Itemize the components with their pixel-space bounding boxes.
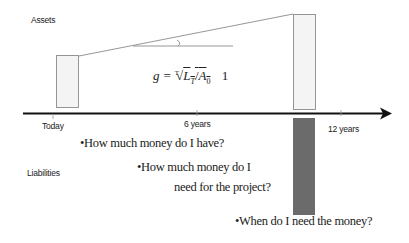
liability-box bbox=[293, 118, 315, 215]
assets-label: Assets bbox=[31, 15, 55, 25]
tick-label-6-years: 6 years bbox=[184, 119, 210, 129]
question-need-line2: need for the project? bbox=[174, 180, 271, 195]
formula-tail: 1 bbox=[222, 68, 229, 83]
formula-denominator-sub: 0 bbox=[206, 77, 210, 86]
growth-formula: g = T√LT/A0 1 bbox=[153, 68, 228, 86]
question-when: •When do I need the money? bbox=[235, 214, 372, 229]
formula-lhs: g = bbox=[153, 68, 172, 83]
asset-future-box bbox=[294, 15, 316, 110]
angle-arc-icon bbox=[177, 40, 180, 46]
growth-line bbox=[79, 14, 293, 56]
asset-today-box bbox=[57, 56, 79, 108]
question-have: •How much money do I have? bbox=[80, 136, 224, 151]
question-need-line1: •How much money do I bbox=[137, 160, 251, 175]
tick-label-12-years: 12 years bbox=[328, 124, 359, 134]
tick-label-today: Today bbox=[42, 121, 64, 131]
liabilities-label: Liabilities bbox=[27, 168, 60, 178]
